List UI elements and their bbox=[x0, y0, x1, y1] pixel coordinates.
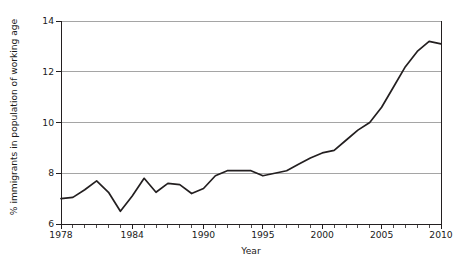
line-chart-figure: % immigrants in population of working ag… bbox=[0, 0, 459, 266]
x-tick-label: 1984 bbox=[110, 230, 154, 240]
x-tick-label: 1978 bbox=[39, 230, 83, 240]
x-tick-label: 2010 bbox=[419, 230, 459, 240]
x-tick-label: 1990 bbox=[182, 230, 226, 240]
data-series-line bbox=[61, 41, 441, 211]
x-axis-title: Year bbox=[61, 245, 441, 256]
x-tick-label: 2005 bbox=[360, 230, 404, 240]
x-tick-label: 1995 bbox=[241, 230, 285, 240]
gridlines bbox=[61, 21, 441, 224]
x-tick-label: 2000 bbox=[300, 230, 344, 240]
plot-area bbox=[0, 0, 459, 266]
x-axis-tick-labels: 1978198419901995200020052010 bbox=[0, 230, 459, 244]
y-axis-ticks bbox=[56, 21, 61, 224]
